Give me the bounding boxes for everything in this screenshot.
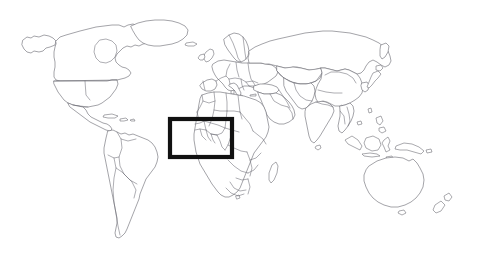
border-lesotho [236,195,240,199]
island-philippines-mindanao [379,127,386,133]
island-iceland [185,42,197,46]
island-new-zealand-south [433,201,445,213]
continent-south-america [104,130,158,238]
island-sulawesi [382,137,390,152]
world-map-figure [0,0,480,265]
island-sardinia [231,90,234,94]
border-mozambique [248,179,250,194]
island-japan [367,71,381,88]
island-sumatra [345,136,362,150]
island-philippines-luzon [376,116,383,125]
island-tasmania [398,210,406,215]
landmass-australia [364,157,424,207]
island-great-britain [204,49,214,62]
continent-australia [364,157,452,215]
landmass-china [315,68,363,106]
continent-asia [248,31,391,150]
island-taiwan [368,108,372,113]
landmass-indochina [338,103,354,133]
island-puerto-rico [130,119,135,121]
island-crete [250,94,256,96]
continent-north-america [22,24,158,131]
landmass-turkey [254,84,279,94]
island-new-guinea [395,143,424,154]
landmass-india [305,101,334,143]
landmass-scandinavia [224,33,249,62]
island-borneo [364,136,381,151]
island-hainan [357,121,362,125]
landmass-alaska [22,35,56,53]
region-southeast-asia-islands [345,108,432,159]
island-java [362,153,380,157]
island-new-britain [426,149,432,153]
island-new-zealand-north [444,193,452,201]
island-sri-lanka [315,145,321,150]
landmass-iberia [200,79,217,91]
border-tanzania-south [248,165,258,173]
island-hokkaido [376,65,383,71]
landmass-south-america [104,130,158,238]
world-map-svg [0,0,480,265]
island-cuba [103,114,118,118]
island-hispaniola [120,118,128,121]
island-madagascar [269,162,278,183]
